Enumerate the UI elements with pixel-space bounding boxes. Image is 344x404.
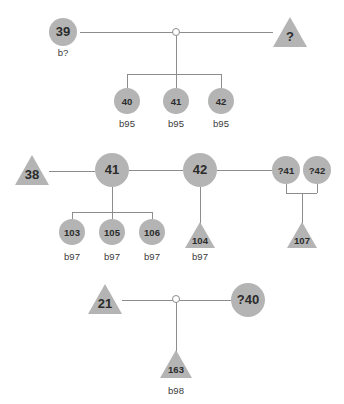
person-node-q42[interactable]: ?42 [303, 156, 331, 184]
person-id-label: 107 [294, 235, 310, 246]
person-node-104[interactable]: 104 b97 [185, 222, 215, 262]
person-id-label: 42 [193, 162, 207, 177]
person-id-label: 163 [168, 364, 184, 375]
person-id-label: ?41 [278, 165, 295, 176]
person-node-39[interactable]: 39 b? [49, 18, 77, 58]
person-id-label: 21 [98, 296, 112, 311]
person-node-21[interactable]: 21 [88, 284, 122, 314]
birth-year-label: b98 [168, 385, 184, 396]
person-node-106[interactable]: 106 b97 [139, 219, 165, 262]
person-id-label: 106 [144, 227, 160, 238]
birth-year-label: b95 [168, 118, 184, 129]
person-id-label: ? [286, 29, 294, 44]
birth-year-label: b97 [192, 251, 208, 262]
birth-year-label: b97 [104, 251, 120, 262]
person-id-label: 38 [25, 167, 39, 182]
person-node-q40[interactable]: ?40 [231, 283, 265, 317]
birth-year-label: b? [58, 47, 69, 58]
person-id-label: 41 [105, 162, 119, 177]
person-node-q41[interactable]: ?41 [272, 156, 300, 184]
person-node-40[interactable]: 40 b95 [114, 88, 140, 129]
person-node-41-gen3[interactable]: 41 [95, 153, 129, 187]
family-1-group: 39 b? ? 40 b95 41 b95 [49, 17, 307, 129]
person-id-label: 105 [104, 227, 121, 238]
person-node-42-gen2[interactable]: 42 b95 [208, 88, 234, 129]
person-node-105[interactable]: 105 b97 [99, 219, 125, 262]
birth-year-label: b97 [64, 251, 80, 262]
pedigree-canvas: 39 b? ? 40 b95 41 b95 [0, 0, 344, 404]
family-3-group: 21 ?40 163 b98 [88, 283, 265, 396]
pedigree-diagram: 39 b? ? 40 b95 41 b95 [0, 0, 344, 404]
person-node-107[interactable]: 107 [287, 222, 317, 248]
mating-node-f3[interactable] [173, 296, 180, 303]
person-id-label: 39 [56, 24, 70, 39]
birth-year-label: b95 [119, 118, 135, 129]
birth-year-label: b97 [144, 251, 160, 262]
person-node-unknown-male[interactable]: ? [273, 17, 307, 47]
person-id-label: ?40 [237, 292, 259, 307]
person-id-label: 41 [171, 96, 182, 107]
person-node-38[interactable]: 38 [15, 155, 49, 185]
person-node-163[interactable]: 163 b98 [160, 350, 192, 396]
person-id-label: 104 [192, 235, 209, 246]
person-node-103[interactable]: 103 b97 [59, 219, 85, 262]
person-id-label: 103 [64, 227, 80, 238]
family-2-group: 38 41 42 ?41 ?42 [15, 153, 331, 262]
person-node-42-gen3[interactable]: 42 [183, 153, 217, 187]
person-id-label: ?42 [309, 165, 325, 176]
person-node-41-gen2[interactable]: 41 b95 [163, 88, 189, 129]
birth-year-label: b95 [213, 118, 229, 129]
person-id-label: 42 [216, 96, 227, 107]
person-id-label: 40 [122, 96, 133, 107]
mating-node-f1[interactable] [173, 29, 180, 36]
